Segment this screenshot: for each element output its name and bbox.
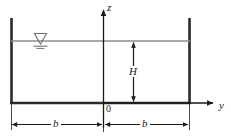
channel-cross-section-drawing: [0, 0, 231, 139]
right-half-width-label: b: [140, 118, 150, 129]
z-axis-label: z: [107, 2, 111, 13]
left-half-width-label: b: [51, 118, 61, 129]
origin-label: 0: [106, 104, 111, 114]
figure-canvas: z y H b b 0: [0, 0, 231, 139]
y-axis-label: y: [219, 100, 224, 111]
depth-label: H: [127, 66, 139, 77]
water-level-triangle-icon: [35, 34, 47, 45]
